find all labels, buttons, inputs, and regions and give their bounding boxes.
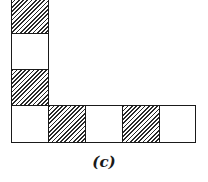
figure-caption: (c) (0, 153, 208, 171)
row-square-4-hatched (122, 105, 160, 143)
row-square-2-hatched (48, 105, 86, 143)
row-square-1-white (11, 105, 49, 143)
column-square-2-white (11, 33, 49, 71)
column-square-3-hatched (11, 69, 49, 107)
row-square-3-white (85, 105, 123, 143)
row-square-5-white (159, 105, 196, 143)
column-square-1-hatched (11, 0, 49, 35)
